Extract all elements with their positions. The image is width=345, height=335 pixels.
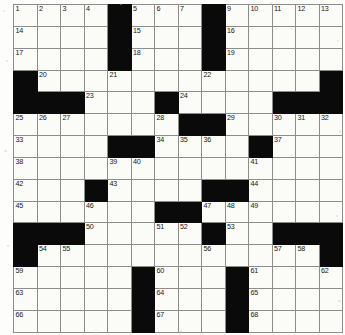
crossword-cell[interactable] (84, 114, 108, 136)
crossword-cell[interactable] (61, 310, 85, 332)
crossword-cell[interactable] (178, 157, 202, 179)
crossword-cell[interactable] (272, 267, 296, 289)
crossword-cell[interactable]: 18 (131, 48, 155, 70)
crossword-cell[interactable] (61, 157, 85, 179)
crossword-cell[interactable]: 33 (14, 136, 38, 158)
crossword-cell[interactable] (37, 288, 61, 310)
crossword-cell[interactable] (37, 26, 61, 48)
crossword-cell[interactable]: 49 (249, 201, 273, 223)
crossword-cell[interactable]: 56 (202, 245, 226, 267)
crossword-cell[interactable] (249, 48, 273, 70)
crossword-cell[interactable] (155, 26, 179, 48)
crossword-cell[interactable] (37, 267, 61, 289)
crossword-cell[interactable] (131, 179, 155, 201)
crossword-cell[interactable] (319, 201, 343, 223)
crossword-cell[interactable] (155, 48, 179, 70)
crossword-cell[interactable]: 26 (37, 114, 61, 136)
crossword-cell[interactable] (61, 201, 85, 223)
crossword-cell[interactable] (155, 70, 179, 92)
crossword-cell[interactable] (202, 92, 226, 114)
crossword-cell[interactable] (178, 288, 202, 310)
crossword-cell[interactable]: 30 (272, 114, 296, 136)
crossword-cell[interactable] (272, 201, 296, 223)
crossword-cell[interactable] (61, 48, 85, 70)
crossword-cell[interactable]: 12 (296, 5, 320, 27)
crossword-cell[interactable] (249, 114, 273, 136)
crossword-cell[interactable]: 10 (249, 5, 273, 27)
crossword-cell[interactable] (178, 310, 202, 332)
crossword-cell[interactable] (225, 136, 249, 158)
crossword-cell[interactable] (61, 179, 85, 201)
crossword-cell[interactable] (37, 201, 61, 223)
crossword-cell[interactable] (319, 136, 343, 158)
crossword-cell[interactable]: 6 (155, 5, 179, 27)
crossword-cell[interactable] (249, 70, 273, 92)
crossword-cell[interactable]: 58 (296, 245, 320, 267)
crossword-cell[interactable] (61, 267, 85, 289)
crossword-cell[interactable] (296, 70, 320, 92)
crossword-cell[interactable]: 57 (272, 245, 296, 267)
crossword-cell[interactable] (61, 136, 85, 158)
crossword-cell[interactable]: 23 (84, 92, 108, 114)
crossword-cell[interactable] (272, 70, 296, 92)
crossword-cell[interactable] (249, 223, 273, 245)
crossword-cell[interactable] (272, 310, 296, 332)
crossword-cell[interactable] (319, 26, 343, 48)
crossword-cell[interactable] (108, 288, 132, 310)
crossword-cell[interactable] (37, 48, 61, 70)
crossword-cell[interactable] (272, 179, 296, 201)
crossword-cell[interactable]: 4 (84, 5, 108, 27)
crossword-cell[interactable]: 40 (131, 157, 155, 179)
crossword-cell[interactable]: 51 (155, 223, 179, 245)
crossword-cell[interactable] (84, 310, 108, 332)
crossword-cell[interactable]: 31 (296, 114, 320, 136)
crossword-cell[interactable]: 13 (319, 5, 343, 27)
crossword-cell[interactable] (84, 245, 108, 267)
crossword-cell[interactable] (202, 288, 226, 310)
crossword-cell[interactable] (319, 310, 343, 332)
crossword-cell[interactable] (84, 157, 108, 179)
crossword-cell[interactable] (61, 26, 85, 48)
crossword-cell[interactable] (296, 288, 320, 310)
crossword-cell[interactable]: 54 (37, 245, 61, 267)
crossword-cell[interactable]: 47 (202, 201, 226, 223)
crossword-cell[interactable] (37, 136, 61, 158)
crossword-cell[interactable]: 59 (14, 267, 38, 289)
crossword-cell[interactable]: 11 (272, 5, 296, 27)
crossword-cell[interactable]: 35 (178, 136, 202, 158)
crossword-cell[interactable] (131, 92, 155, 114)
crossword-cell[interactable]: 37 (272, 136, 296, 158)
crossword-cell[interactable]: 17 (14, 48, 38, 70)
crossword-cell[interactable]: 39 (108, 157, 132, 179)
crossword-cell[interactable]: 15 (131, 26, 155, 48)
crossword-cell[interactable] (296, 179, 320, 201)
crossword-cell[interactable]: 62 (319, 267, 343, 289)
crossword-cell[interactable]: 43 (108, 179, 132, 201)
crossword-cell[interactable]: 45 (14, 201, 38, 223)
crossword-cell[interactable]: 5 (131, 5, 155, 27)
crossword-cell[interactable] (178, 26, 202, 48)
crossword-cell[interactable] (37, 310, 61, 332)
crossword-cell[interactable] (108, 201, 132, 223)
crossword-cell[interactable]: 19 (225, 48, 249, 70)
crossword-cell[interactable] (272, 48, 296, 70)
crossword-cell[interactable] (84, 48, 108, 70)
crossword-cell[interactable] (84, 26, 108, 48)
crossword-cell[interactable]: 22 (202, 70, 226, 92)
crossword-cell[interactable]: 52 (178, 223, 202, 245)
crossword-cell[interactable]: 29 (225, 114, 249, 136)
crossword-cell[interactable]: 64 (155, 288, 179, 310)
crossword-cell[interactable] (108, 267, 132, 289)
crossword-cell[interactable] (178, 179, 202, 201)
crossword-cell[interactable] (296, 267, 320, 289)
crossword-cell[interactable] (202, 267, 226, 289)
crossword-cell[interactable]: 21 (108, 70, 132, 92)
crossword-cell[interactable]: 28 (155, 114, 179, 136)
crossword-cell[interactable] (225, 70, 249, 92)
crossword-cell[interactable]: 1 (14, 5, 38, 27)
crossword-cell[interactable]: 46 (84, 201, 108, 223)
crossword-cell[interactable] (131, 245, 155, 267)
crossword-cell[interactable]: 55 (61, 245, 85, 267)
crossword-cell[interactable]: 9 (225, 5, 249, 27)
crossword-cell[interactable]: 20 (37, 70, 61, 92)
